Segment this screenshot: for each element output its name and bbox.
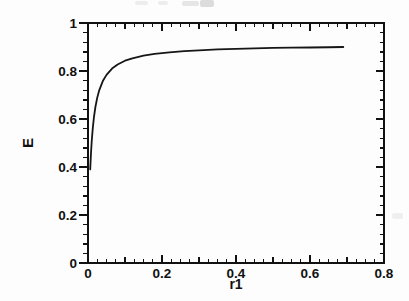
figure: 00.20.40.60.800.20.40.60.81 r1 E xyxy=(0,0,409,301)
svg-text:0.8: 0.8 xyxy=(58,64,77,79)
svg-text:0.2: 0.2 xyxy=(58,208,77,223)
svg-text:0.8: 0.8 xyxy=(375,266,394,281)
svg-text:0.6: 0.6 xyxy=(301,266,320,281)
svg-text:0: 0 xyxy=(69,256,77,271)
svg-text:0.6: 0.6 xyxy=(58,112,77,127)
tick-labels: 00.20.40.60.800.20.40.60.81 xyxy=(58,16,394,281)
plot-canvas: 00.20.40.60.800.20.40.60.81 r1 E xyxy=(0,0,409,301)
svg-text:0.2: 0.2 xyxy=(153,266,172,281)
svg-text:1: 1 xyxy=(69,16,77,31)
svg-text:0: 0 xyxy=(84,266,92,281)
y-axis-label: E xyxy=(19,138,36,148)
data-curve xyxy=(90,47,343,169)
x-axis-label: r1 xyxy=(229,276,242,292)
svg-text:0.4: 0.4 xyxy=(58,160,77,175)
axis-frame xyxy=(79,23,384,263)
